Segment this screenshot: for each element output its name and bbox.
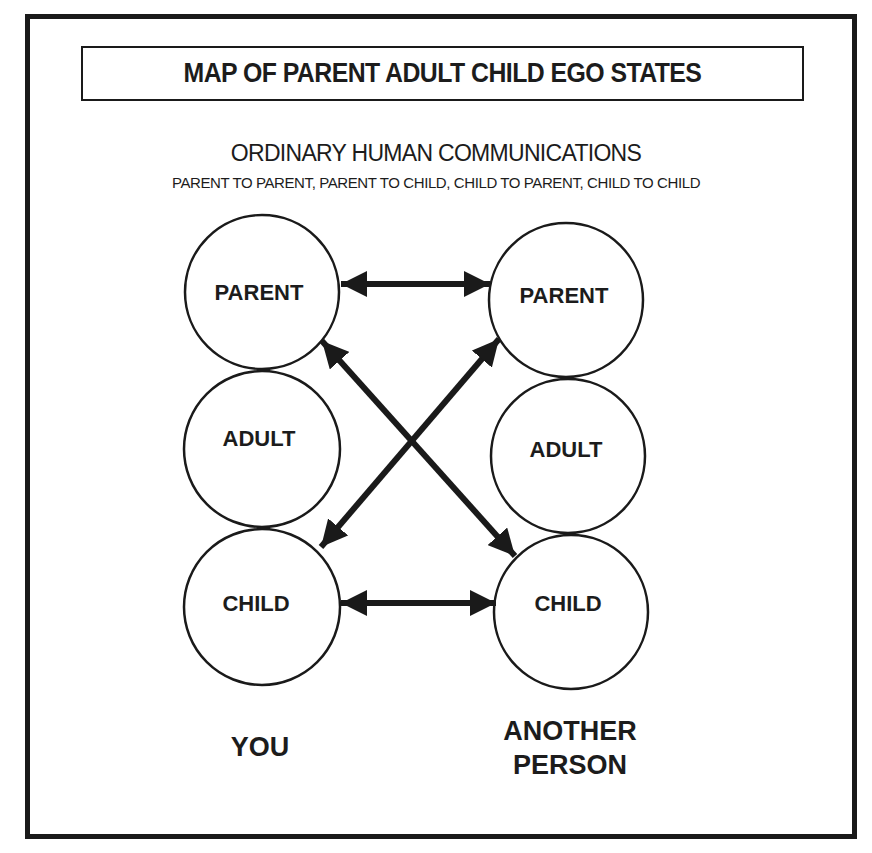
arrow-parent-to-child-diagonal [322, 341, 515, 556]
node-you-child: CHILD [184, 529, 340, 685]
party-label-you: YOU [200, 730, 320, 764]
node-label: PARENT [215, 280, 304, 305]
node-label: CHILD [534, 591, 601, 616]
node-other-child: CHILD [494, 535, 648, 689]
node-label: CHILD [222, 591, 289, 616]
node-you-parent: PARENT [185, 215, 339, 369]
node-other-parent: PARENT [489, 223, 643, 377]
node-label: ADULT [530, 437, 603, 462]
node-label: PARENT [520, 283, 609, 308]
ego-state-diagram: PARENT ADULT CHILD PARENT ADULT CHILD [0, 0, 872, 853]
node-other-adult: ADULT [491, 379, 645, 533]
node-label: ADULT [223, 426, 296, 451]
party-label-you-text: YOU [231, 732, 290, 762]
party-label-other-line1: ANOTHER [480, 714, 660, 748]
party-label-another-person: ANOTHER PERSON [480, 714, 660, 782]
node-you-adult: ADULT [184, 371, 340, 527]
party-label-other-line2: PERSON [480, 748, 660, 782]
